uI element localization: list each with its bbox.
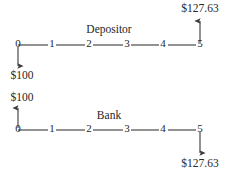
bank-inflow-amount-period-0: $100 <box>11 92 34 104</box>
bank-tick-4: 4 <box>156 123 170 134</box>
depositor-outflow-amount-period-0: $100 <box>11 70 34 82</box>
bank-actor-label: Bank <box>97 110 121 122</box>
depositor-actor-label: Depositor <box>86 24 131 36</box>
depositor-tick-1: 1 <box>45 38 59 49</box>
bank-tick-5: 5 <box>193 123 207 134</box>
bank-outflow-amount-period-5: $127.63 <box>181 158 218 170</box>
bank-tick-1: 1 <box>45 123 59 134</box>
depositor-tick-2: 2 <box>82 38 96 49</box>
bank-tick-2: 2 <box>82 123 96 134</box>
bank-tick-3: 3 <box>120 123 134 134</box>
depositor-tick-5: 5 <box>193 38 207 49</box>
depositor-inflow-amount-period-5: $127.63 <box>181 3 218 15</box>
depositor-tick-4: 4 <box>156 38 170 49</box>
cash-flow-timeline-figure: Depositor $127.63 $100 0 1 2 3 4 5 $100 … <box>0 0 228 180</box>
bank-tick-0: 0 <box>11 123 25 134</box>
depositor-tick-3: 3 <box>120 38 134 49</box>
depositor-tick-0: 0 <box>11 38 25 49</box>
